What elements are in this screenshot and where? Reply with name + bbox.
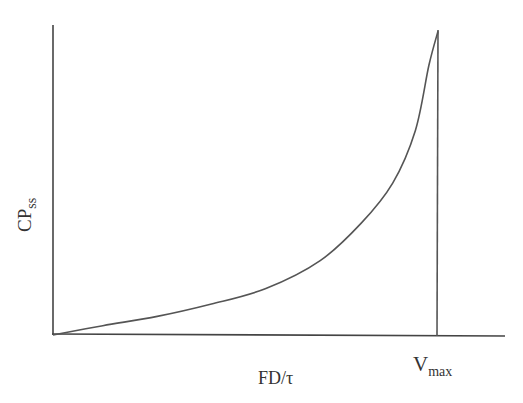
- chart-canvas: CPss FD/τ Vmax: [0, 0, 523, 403]
- y-axis-label: CPss: [14, 198, 40, 232]
- vmax-label: Vmax: [413, 352, 452, 380]
- cpss-curve: [53, 31, 438, 335]
- plot-area: [0, 0, 523, 403]
- x-axis-label: FD/τ: [258, 368, 293, 389]
- vmax-asymptote-line: [437, 30, 438, 336]
